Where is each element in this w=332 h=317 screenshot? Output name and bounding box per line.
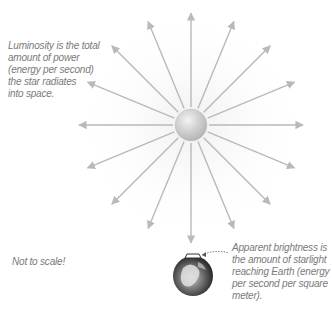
detector-area-icon xyxy=(185,254,201,258)
earth xyxy=(173,254,213,296)
luminosity-caption: Luminosity is the total amount of power … xyxy=(8,40,123,100)
star xyxy=(175,109,207,141)
not-to-scale-note: Not to scale! xyxy=(12,256,65,268)
leader-line xyxy=(202,251,229,255)
apparent-brightness-caption: Apparent brightness is the amount of sta… xyxy=(232,242,332,302)
